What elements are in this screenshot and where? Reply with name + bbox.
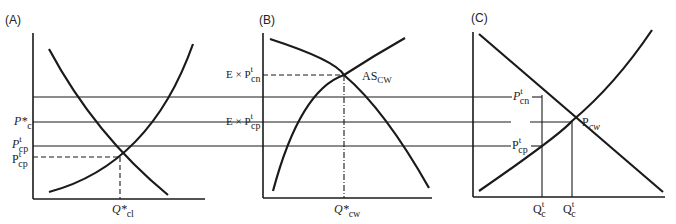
panel-b-label: (B) — [259, 13, 275, 27]
panel-c-label: (C) — [471, 11, 488, 25]
cross-panel-price-lines — [33, 97, 572, 146]
label-q-star-cw: Q*cw — [334, 202, 361, 219]
panel-c: (C) Ptcn Ptcp Pcw Qtc Qtc — [471, 11, 665, 219]
label-p-t-cp: Ptcp — [512, 135, 528, 155]
label-q-t-c-right: Qtc — [563, 199, 576, 219]
panel-b-demand-curve — [270, 39, 429, 188]
panel-a-supply-curve — [49, 44, 193, 192]
panel-c-supply-curve — [479, 30, 652, 191]
label-q-t-c-left: Qtc — [533, 199, 546, 219]
panel-a-label: (A) — [5, 13, 21, 27]
three-panel-economics-diagram: (A) P*c Ptcp Ptcp Q*cl (B) E × — [0, 0, 676, 224]
panel-b-as-curve — [273, 38, 405, 191]
panel-c-demand-line — [479, 34, 663, 192]
label-e-p-t-cn: E × Ptcn — [226, 64, 261, 84]
label-p-t-cn: Ptcn — [512, 86, 529, 106]
panel-a: (A) P*c Ptcp Ptcp Q*cl — [5, 13, 205, 219]
label-e-p-t-cp: E × Ptcp — [226, 111, 261, 131]
label-q-star-cl: Q*cl — [112, 202, 134, 219]
panel-b: (B) E × Ptcn E × Ptcp ASCW Q*cw — [226, 13, 432, 219]
label-p-star-c: P*c — [13, 114, 32, 131]
label-p-cw: Pcw — [582, 115, 600, 132]
label-as-cw: ASCW — [362, 69, 392, 85]
